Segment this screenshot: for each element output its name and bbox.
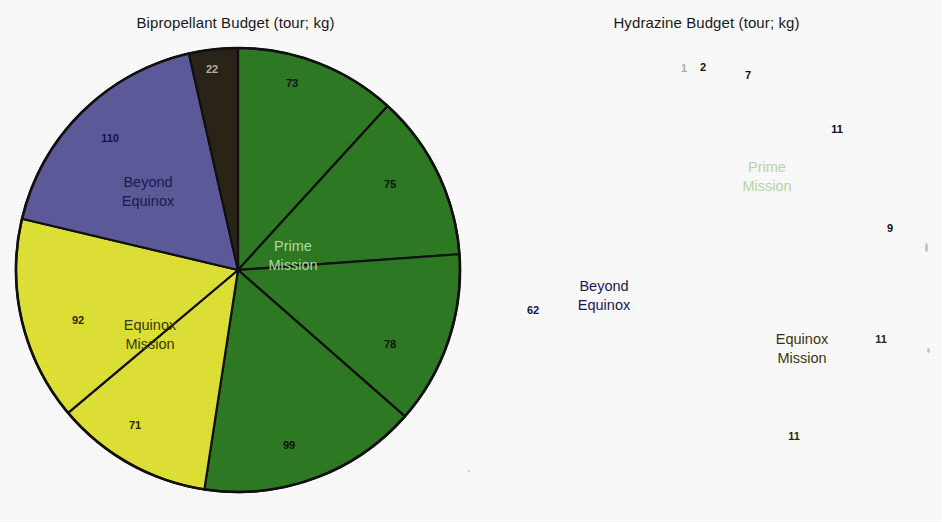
- slice-value-label: 9: [887, 222, 893, 234]
- slice-value-label: 2: [700, 61, 706, 73]
- chart-title-hydrazine: Hydrazine Budget (tour; kg): [471, 14, 942, 31]
- slice-value-label: 11: [788, 430, 800, 442]
- slice-value-label: 1: [681, 62, 687, 74]
- slice-category-label: PrimeMission: [742, 159, 791, 194]
- slice-value-label: 75: [384, 178, 396, 190]
- panel-bipropellant: Bipropellant Budget (tour; kg) 737578997…: [0, 0, 471, 522]
- slice-category-label: BeyondEquinox: [578, 278, 631, 313]
- slice-value-label: 11: [831, 123, 843, 135]
- scan-speck: [925, 243, 928, 252]
- scan-speck: [468, 470, 470, 472]
- slice-value-label: 99: [283, 439, 295, 451]
- panel-hydrazine: Hydrazine Budget (tour; kg) 127119111162…: [471, 0, 942, 522]
- chart-title-bipropellant: Bipropellant Budget (tour; kg): [0, 14, 471, 31]
- slice-value-label: 78: [384, 338, 396, 350]
- slice-value-label: 62: [527, 304, 539, 316]
- slice-value-label: 73: [286, 77, 298, 89]
- slice-value-label: 92: [72, 314, 84, 326]
- slice-value-label: 71: [129, 419, 141, 431]
- slice-value-label: 110: [101, 132, 119, 144]
- pie-chart-bipropellant: 73757899719211022PrimeMissionEquinoxMiss…: [0, 0, 471, 522]
- pie-chart-figure: Bipropellant Budget (tour; kg) 737578997…: [0, 0, 942, 522]
- slice-category-label: EquinoxMission: [776, 331, 829, 366]
- scan-speck: [927, 348, 930, 353]
- slice-value-label: 11: [875, 333, 887, 345]
- pie-chart-hydrazine: 127119111162PrimeMissionEquinoxMissionBe…: [471, 0, 942, 522]
- slice-value-label: 7: [745, 69, 751, 81]
- slice-value-label: 22: [206, 63, 218, 75]
